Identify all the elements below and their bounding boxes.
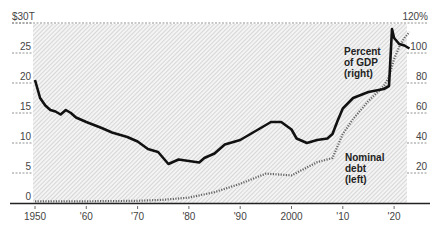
x-tick-label: 2000	[280, 211, 303, 222]
left-tick-label: 25	[20, 41, 32, 52]
right-tick-label: 20	[416, 161, 428, 172]
left-tick-label: 0	[25, 191, 31, 202]
x-tick-label: '70	[131, 211, 144, 222]
x-axis-ticks: 1950'60'70'80'902000'10'20	[24, 206, 401, 222]
x-tick-label: '90	[234, 211, 247, 222]
annotation-line: debt	[345, 163, 367, 174]
annotation-line: (left)	[345, 174, 367, 185]
x-tick-label: '20	[388, 211, 401, 222]
right-tick-label: 40	[416, 131, 428, 142]
x-tick-label: '80	[182, 211, 195, 222]
annotation-line: (right)	[344, 68, 373, 79]
right-tick-label: 100	[410, 41, 427, 52]
left-tick-label: 5	[25, 161, 31, 172]
left-tick-label: $30T	[12, 11, 35, 22]
annotation-line: Nominal	[345, 152, 385, 163]
annotation-line: Percent	[344, 46, 381, 57]
debt-chart: 0510152025$30T 20406080100120% 1950'60'7…	[0, 0, 438, 231]
left-tick-label: 20	[20, 71, 32, 82]
right-tick-label: 120%	[402, 11, 428, 22]
left-tick-label: 10	[20, 131, 32, 142]
x-tick-label: '60	[80, 211, 93, 222]
x-tick-label: '10	[336, 211, 349, 222]
right-tick-label: 60	[416, 101, 428, 112]
right-tick-label: 80	[416, 71, 428, 82]
x-tick-label: 1950	[24, 211, 47, 222]
left-tick-label: 15	[20, 101, 32, 112]
annotation-line: of GDP	[344, 57, 378, 68]
